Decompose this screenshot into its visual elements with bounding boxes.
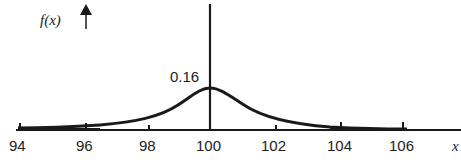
tick-label-102: 102 — [261, 137, 286, 154]
peak-label: 0.16 — [170, 68, 199, 85]
tick-label-106: 106 — [389, 137, 414, 154]
tick-label-100: 100 — [196, 137, 221, 154]
tick-label-104: 104 — [327, 137, 352, 154]
tick-label-96: 96 — [76, 137, 93, 154]
tick-label-98: 98 — [139, 137, 156, 154]
x-axis-label: x — [451, 138, 459, 154]
tick-label-94: 94 — [9, 137, 26, 154]
up-arrow-icon — [80, 4, 92, 29]
chart: f(x) 0.16 94 96 98 100 102 104 106 x — [0, 0, 461, 167]
y-axis-label: f(x) — [40, 12, 61, 29]
density-curve — [18, 88, 407, 129]
